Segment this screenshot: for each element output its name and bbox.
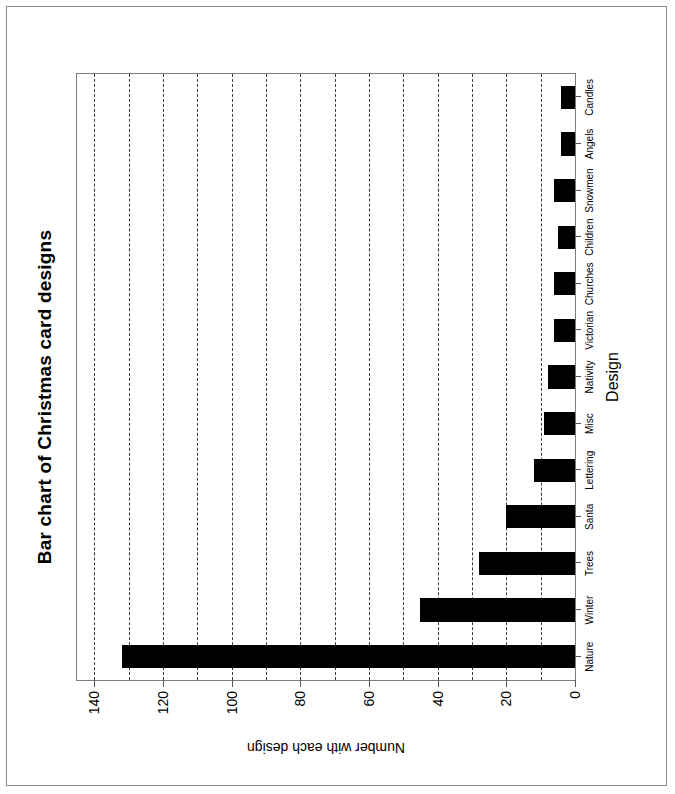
gridline: [334, 74, 335, 680]
value-tick-mark: [368, 680, 369, 687]
bar: [544, 412, 575, 435]
category-tick-mark: [575, 656, 581, 657]
chart-rotation-wrapper: Bar chart of Christmas card designs Numb…: [0, 0, 675, 794]
gridline: [300, 74, 301, 680]
value-tick-label: 40: [429, 691, 445, 707]
value-tick-mark: [437, 680, 438, 687]
category-tick-label: Churches: [584, 262, 595, 305]
category-tick-label: Winter: [584, 596, 595, 625]
bar: [121, 645, 574, 668]
value-tick-label: 140: [86, 691, 102, 714]
bar: [420, 598, 575, 621]
value-tick-label: 120: [154, 691, 170, 714]
value-tick-mark: [575, 680, 576, 687]
category-tick-label: Nativity: [584, 361, 595, 394]
gridline: [231, 74, 232, 680]
value-tick-mark: [162, 680, 163, 687]
value-tick-mark: [300, 680, 301, 687]
bar: [547, 365, 574, 388]
value-tick-label: 80: [292, 691, 308, 707]
category-tick-mark: [575, 469, 581, 470]
value-tick-label: 20: [498, 691, 514, 707]
value-axis-title: Number with each design: [76, 737, 576, 759]
value-axis-title-text: Number with each design: [247, 740, 405, 756]
bar: [561, 132, 575, 155]
plot-area: 020406080100120140 NatureWinterTreesSant…: [76, 73, 576, 681]
category-tick-label: Santa: [584, 504, 595, 530]
bar: [554, 179, 575, 202]
bar: [554, 272, 575, 295]
value-tick-mark: [94, 680, 95, 687]
value-tick-label: 60: [360, 691, 376, 707]
category-tick-mark: [575, 329, 581, 330]
category-tick-mark: [575, 609, 581, 610]
category-tick-label: Victorian: [584, 311, 595, 350]
gridline: [162, 74, 163, 680]
bar-chart: Bar chart of Christmas card designs Numb…: [28, 27, 648, 767]
category-tick-mark: [575, 562, 581, 563]
category-axis-title: Design: [604, 73, 622, 681]
gridline: [368, 74, 369, 680]
bar: [506, 505, 575, 528]
category-tick-label: Trees: [584, 551, 595, 576]
bar: [554, 319, 575, 342]
gridline: [437, 74, 438, 680]
gridline: [197, 74, 198, 680]
category-tick-label: Misc: [584, 413, 595, 434]
bar: [561, 86, 575, 109]
category-tick-label: Lettering: [584, 451, 595, 490]
value-tick-label: 0: [567, 691, 583, 699]
category-tick-label: Children: [584, 219, 595, 256]
category-tick-label: Snowmen: [584, 168, 595, 212]
category-tick-mark: [575, 96, 581, 97]
category-tick-mark: [575, 283, 581, 284]
gridline: [506, 74, 507, 680]
gridline: [265, 74, 266, 680]
category-tick-mark: [575, 376, 581, 377]
gridline: [94, 74, 95, 680]
category-tick-mark: [575, 236, 581, 237]
gridline: [128, 74, 129, 680]
bar: [533, 459, 574, 482]
chart-title: Bar chart of Christmas card designs: [34, 27, 56, 767]
category-tick-label: Candles: [584, 79, 595, 116]
value-tick-mark: [506, 680, 507, 687]
gridline: [540, 74, 541, 680]
category-tick-mark: [575, 516, 581, 517]
value-tick-label: 100: [223, 691, 239, 714]
bar: [557, 226, 574, 249]
category-tick-label: Angels: [584, 129, 595, 160]
category-tick-mark: [575, 423, 581, 424]
gridline: [403, 74, 404, 680]
category-tick-mark: [575, 143, 581, 144]
category-tick-label: Nature: [584, 642, 595, 672]
gridline: [471, 74, 472, 680]
category-tick-mark: [575, 190, 581, 191]
value-tick-mark: [231, 680, 232, 687]
bar: [478, 552, 574, 575]
